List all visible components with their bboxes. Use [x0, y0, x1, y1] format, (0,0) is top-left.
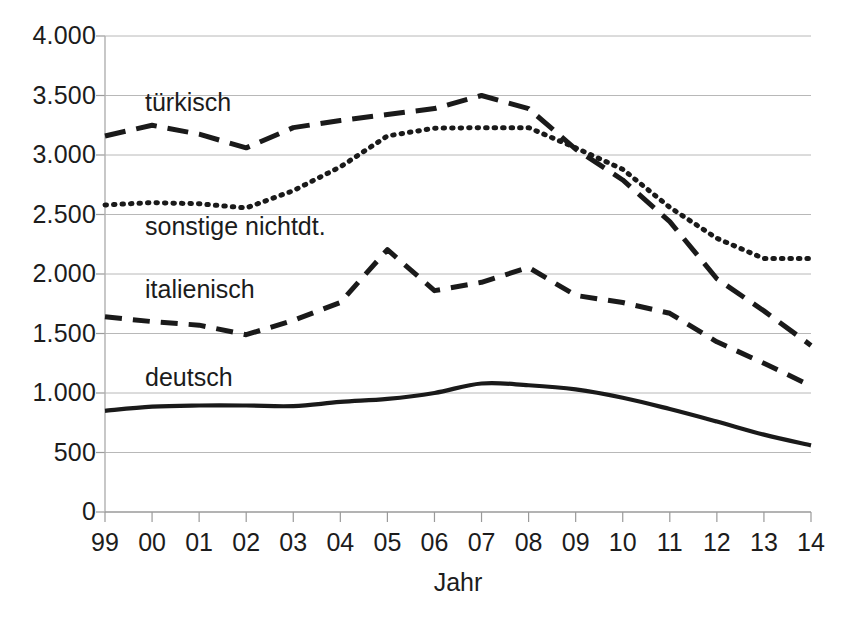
- x-axis-tick-label: 13: [750, 530, 778, 555]
- x-axis-tick-label: 11: [657, 530, 683, 555]
- x-axis-tick-label: 14: [797, 530, 825, 555]
- x-axis-ticks: [105, 512, 811, 522]
- series-label-italienisch: italienisch: [145, 277, 255, 302]
- x-axis-tick-label: 07: [468, 530, 496, 555]
- series-label-sonstige-nichtdt: sonstige nichtdt.: [145, 214, 326, 239]
- x-axis-tick-label: 03: [279, 530, 307, 555]
- series-label-t-rkisch: türkisch: [145, 90, 231, 115]
- x-axis-tick-label: 00: [138, 530, 166, 555]
- x-axis-tick-label: 06: [421, 530, 449, 555]
- x-axis-tick-label: 12: [703, 530, 731, 555]
- x-axis-tick-label: 05: [373, 530, 401, 555]
- x-axis-tick-label: 04: [326, 530, 354, 555]
- series-label-deutsch: deutsch: [145, 365, 233, 390]
- x-axis-tick-label: 08: [515, 530, 543, 555]
- x-axis-tick-label: 09: [562, 530, 590, 555]
- x-axis-tick-label: 01: [185, 530, 213, 555]
- x-axis-tick-label: 99: [91, 530, 119, 555]
- x-axis-title: Jahr: [434, 570, 483, 595]
- series-line-deutsch: [105, 383, 811, 445]
- chart-container: 05001.0001.5002.0002.5003.0003.5004.000 …: [0, 0, 843, 622]
- x-axis-tick-label: 10: [609, 530, 637, 555]
- x-axis-tick-label: 02: [232, 530, 260, 555]
